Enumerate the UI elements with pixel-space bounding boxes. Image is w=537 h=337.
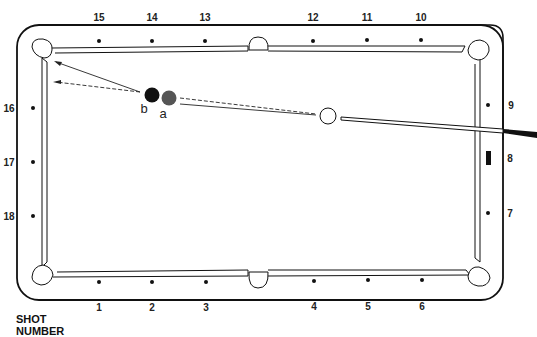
diamond-label-9: 9: [508, 100, 514, 111]
diamond-label-8: 8: [507, 153, 513, 164]
object-ball-a-path: [56, 82, 140, 92]
diamond-label-18: 18: [3, 211, 14, 222]
cue-stick-butt: [503, 129, 537, 138]
ball-label-a: a: [159, 106, 166, 121]
pocket-top-middle: [249, 37, 268, 50]
shot-title-line1: SHOT: [16, 313, 64, 325]
pocket-top-left: [32, 39, 52, 58]
cue-stick: [341, 117, 503, 133]
pocket-bottom-right: [468, 267, 490, 286]
arrow-head-a: [53, 80, 61, 84]
pocket-bottom-left: [32, 265, 53, 285]
arrowheads: [53, 61, 62, 84]
ball-a: [162, 91, 177, 106]
diamond-label-2: 2: [149, 302, 155, 313]
pockets: [32, 37, 490, 288]
diamond-label-15: 15: [93, 12, 104, 23]
diamond-label-14: 14: [146, 12, 157, 23]
cue-ball: [320, 108, 336, 124]
diamond-label-16: 16: [3, 103, 14, 114]
pocket-top-right: [468, 40, 489, 60]
diamond-label-13: 13: [199, 12, 210, 23]
diamonds: [31, 38, 491, 284]
table-outer-rail: [42, 25, 503, 140]
diamond-label-7: 7: [507, 208, 513, 219]
diamond-label-1: 1: [96, 302, 102, 313]
diamond-label-4: 4: [311, 301, 317, 312]
pocket-bottom-middle: [249, 272, 268, 288]
arrow-head-b: [54, 61, 62, 66]
ball-label-b: b: [140, 101, 147, 116]
shot-title-line2: NUMBER: [16, 325, 64, 337]
diamond-label-12: 12: [307, 12, 318, 23]
diamond-label-11: 11: [362, 12, 373, 23]
diamond-label-6: 6: [419, 301, 425, 312]
shot-paths: [56, 62, 316, 115]
position-marker-bar: [486, 151, 491, 165]
table-outer-border: [17, 25, 503, 300]
diamond-label-17: 17: [3, 157, 14, 168]
shot-number-title: SHOT NUMBER: [16, 313, 64, 337]
object-ball-b-path: [56, 62, 140, 92]
diamond-label-3: 3: [203, 302, 209, 313]
diamond-label-10: 10: [415, 12, 426, 23]
diamond-label-5: 5: [365, 301, 371, 312]
